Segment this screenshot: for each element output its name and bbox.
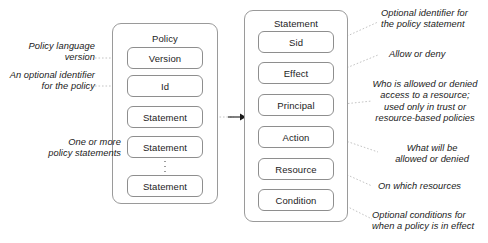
statement-title: Statement xyxy=(245,18,347,29)
policy-field-statement-2-label: Statement xyxy=(143,142,187,153)
statement-field-condition-label: Condition xyxy=(275,195,316,206)
statement-field-condition[interactable]: Condition xyxy=(258,189,334,211)
policy-field-id-label: Id xyxy=(161,81,169,92)
statement-field-principal[interactable]: Principal xyxy=(258,94,334,116)
statement-field-resource[interactable]: Resource xyxy=(258,158,334,180)
policy-field-statement-1[interactable]: Statement xyxy=(127,106,203,128)
policy-field-statement-3[interactable]: Statement xyxy=(127,175,203,197)
statement-field-action-label: Action xyxy=(282,132,309,143)
note-optional-conditions: Optional conditions for when a policy is… xyxy=(372,210,488,233)
statement-field-sid-label: Sid xyxy=(289,37,303,48)
note-optional-identifier-statement: Optional identifier for the policy state… xyxy=(381,8,487,31)
policy-statements-ellipsis xyxy=(164,161,166,172)
note-on-which-resources: On which resources xyxy=(378,181,486,192)
policy-field-version-label: Version xyxy=(149,53,181,64)
policy-field-version[interactable]: Version xyxy=(127,47,203,69)
policy-field-id[interactable]: Id xyxy=(127,75,203,97)
statement-field-effect[interactable]: Effect xyxy=(258,62,334,84)
statement-field-sid[interactable]: Sid xyxy=(258,31,334,53)
policy-field-statement-1-label: Statement xyxy=(143,112,187,123)
statement-field-resource-label: Resource xyxy=(275,164,316,175)
note-optional-identifier-policy: An optional identifier for the policy xyxy=(6,70,95,93)
diagram-canvas: Policy Version Id Statement Statement St… xyxy=(0,0,488,243)
note-allow-or-deny: Allow or deny xyxy=(389,49,485,60)
note-policy-language-version: Policy language version xyxy=(10,41,95,64)
note-one-or-more-statements: One or more policy statements xyxy=(26,137,121,160)
note-what-will-be-allowed: What will be allowed or denied xyxy=(380,143,484,166)
policy-field-statement-2[interactable]: Statement xyxy=(127,136,203,158)
statement-field-principal-label: Principal xyxy=(277,100,314,111)
policy-title: Policy xyxy=(113,33,217,44)
note-principal-description: Who is allowed or denied access to a res… xyxy=(365,79,485,125)
policy-field-statement-3-label: Statement xyxy=(143,181,187,192)
statement-field-effect-label: Effect xyxy=(284,68,309,79)
statement-field-action[interactable]: Action xyxy=(258,126,334,148)
